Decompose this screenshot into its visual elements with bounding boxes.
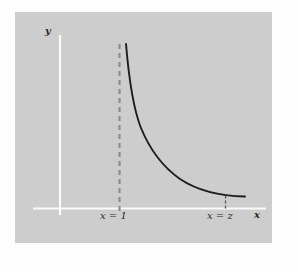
curve-path [126,44,245,197]
figure-container: y x x = 1 x = z [0,0,298,272]
tick-label-x-equals-z: x = z [207,210,233,221]
plot-svg [0,0,298,272]
y-axis-label: y [45,25,51,36]
tick-label-x-equals-1: x = 1 [100,210,127,221]
x-axis-label: x [254,209,260,220]
